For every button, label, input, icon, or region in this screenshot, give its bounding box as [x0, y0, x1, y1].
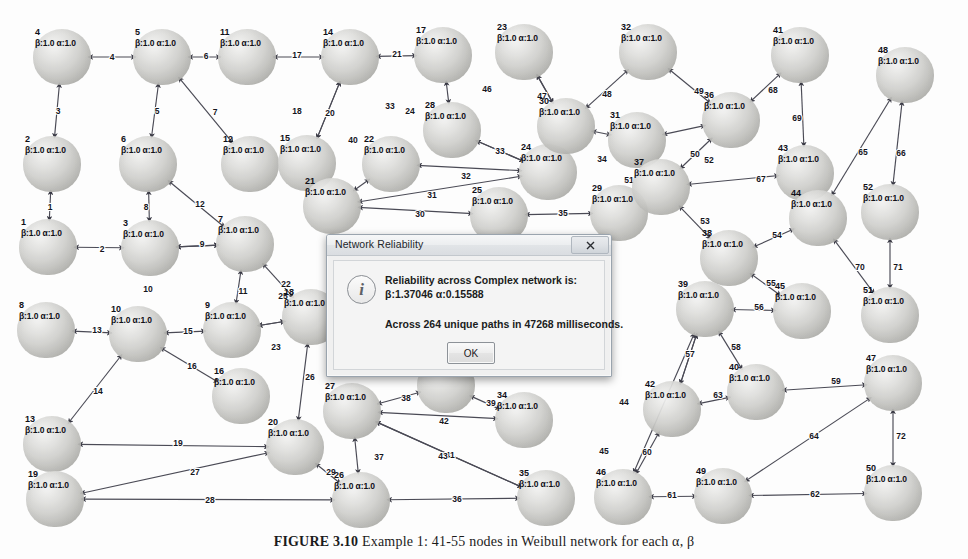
graph-node-46[interactable] — [594, 469, 652, 525]
info-icon: i — [347, 275, 376, 304]
graph-node-3[interactable] — [121, 220, 179, 276]
graph-node-48[interactable] — [876, 47, 934, 103]
graph-node-20[interactable] — [266, 419, 324, 475]
graph-node-13[interactable] — [23, 416, 81, 472]
graph-node-5[interactable] — [133, 29, 191, 85]
graph-node-9[interactable] — [203, 302, 261, 358]
graph-node-44[interactable] — [789, 190, 847, 246]
graph-node-11[interactable] — [218, 29, 276, 85]
graph-node-28[interactable] — [423, 102, 481, 158]
graph-node-35[interactable] — [517, 470, 575, 526]
close-x-glyph — [585, 241, 596, 250]
graph-node-42[interactable] — [643, 381, 701, 437]
dialog-body: i Reliability across Complex network is:… — [333, 260, 605, 370]
graph-node-8[interactable] — [17, 302, 75, 358]
graph-node-51[interactable] — [861, 287, 919, 343]
graph-node-34[interactable] — [495, 392, 553, 448]
dialog-paths-summary: Across 264 unique paths in 47268 millise… — [385, 318, 623, 330]
close-icon[interactable] — [571, 236, 609, 254]
graph-node-26[interactable] — [332, 472, 390, 528]
graph-node-17[interactable] — [414, 27, 472, 83]
graph-node-52[interactable] — [861, 184, 919, 240]
dialog-title: Network Reliability — [335, 238, 423, 250]
figure-caption: FIGURE 3.10 Example 1: 41-55 nodes in We… — [0, 534, 968, 559]
figure-label: FIGURE 3.10 — [274, 534, 359, 549]
graph-node-7[interactable] — [216, 216, 274, 272]
graph-node-23[interactable] — [495, 24, 553, 80]
ok-button[interactable]: OK — [447, 342, 495, 364]
graph-node-49[interactable] — [694, 468, 752, 524]
graph-node-21[interactable] — [303, 178, 361, 234]
graph-node-50[interactable] — [864, 465, 922, 521]
graph-node-47[interactable] — [864, 355, 922, 411]
graph-node-38[interactable] — [700, 230, 758, 286]
network-reliability-dialog[interactable]: Network Reliability i Reliability across… — [326, 234, 612, 377]
graph-node-19[interactable] — [26, 471, 84, 527]
graph-node-22[interactable] — [362, 136, 420, 192]
graph-node-6[interactable] — [119, 136, 177, 192]
graph-node-1[interactable] — [19, 219, 77, 275]
graph-node-12[interactable] — [221, 136, 279, 192]
graph-node-27[interactable] — [323, 383, 381, 439]
dialog-reliability-values: β:1.37046 α:0.15588 — [385, 288, 484, 300]
figure-canvas: 1234567891011121314151617181920212223242… — [0, 0, 968, 559]
figure-caption-text: Example 1: 41-55 nodes in Weibull networ… — [362, 534, 694, 549]
graph-node-2[interactable] — [23, 136, 81, 192]
graph-node-41[interactable] — [771, 27, 829, 83]
graph-node-32[interactable] — [619, 24, 677, 80]
graph-node-10[interactable] — [109, 306, 167, 362]
graph-node-4[interactable] — [33, 29, 91, 85]
graph-node-40[interactable] — [727, 364, 785, 420]
dialog-message-line-1: Reliability across Complex network is: — [385, 274, 577, 286]
graph-node-14[interactable] — [321, 29, 379, 85]
graph-node-30[interactable] — [537, 98, 595, 154]
graph-node-37[interactable] — [632, 159, 690, 215]
graph-node-16[interactable] — [212, 368, 270, 424]
dialog-titlebar[interactable]: Network Reliability — [327, 235, 611, 256]
graph-node-36[interactable] — [702, 92, 760, 148]
graph-node-45[interactable] — [773, 283, 831, 339]
graph-node-39[interactable] — [676, 281, 734, 337]
